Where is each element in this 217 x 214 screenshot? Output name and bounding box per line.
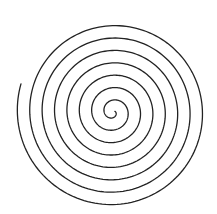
background (0, 0, 217, 214)
spiral-diagram (0, 0, 217, 214)
